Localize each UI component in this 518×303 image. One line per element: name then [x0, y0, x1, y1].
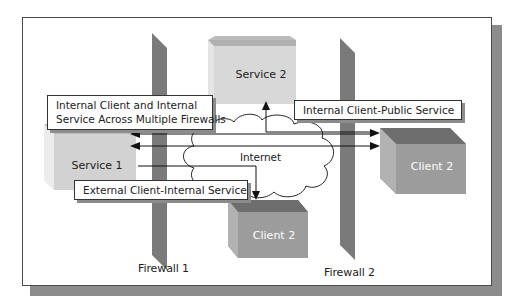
client-2-right-label: Client 2: [402, 160, 462, 173]
callout-line-1: Internal Client and Internal: [56, 98, 204, 112]
internet-label: Internet: [240, 151, 281, 163]
service-1-label: Service 1: [62, 159, 132, 172]
callout-internal-client-public-service: Internal Client-Public Service: [294, 100, 462, 120]
callout-label: Internal Client-Public Service: [303, 104, 454, 116]
firewall-1-label: Firewall 1: [138, 262, 189, 275]
firewall-2-shape: [340, 38, 355, 260]
service-2-label: Service 2: [226, 68, 296, 81]
firewall-1-shape: [152, 33, 167, 270]
callout-line-2: Service Across Multiple Firewalls: [56, 112, 204, 126]
firewall-2-label: Firewall 2: [324, 266, 375, 279]
callout-label: External Client-Internal Service: [83, 184, 247, 196]
callout-internal-multiple-firewalls: Internal Client and Internal Service Acr…: [47, 95, 213, 130]
client-2-center-label: Client 2: [244, 229, 304, 242]
callout-external-client-internal-service: External Client-Internal Service: [74, 180, 248, 200]
